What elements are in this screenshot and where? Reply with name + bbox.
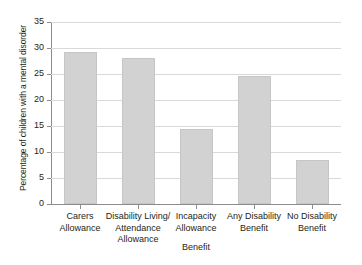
y-tick-label-15: 15 (22, 121, 44, 130)
bar (64, 52, 97, 204)
x-tick-mark-1 (138, 205, 139, 209)
bar (122, 58, 155, 204)
gridline-35 (51, 22, 341, 23)
bar-chart-figure: Percentage of children with a mental dis… (0, 0, 362, 265)
x-category-label-line: No Disability (277, 211, 347, 223)
y-tick-label-20: 20 (22, 95, 44, 104)
bar (296, 160, 329, 204)
y-tick-label-10: 10 (22, 147, 44, 156)
y-tick-label-35: 35 (22, 17, 44, 26)
plot-area (51, 22, 341, 204)
x-category-label-line: Benefit (277, 223, 347, 235)
x-tick-mark-0 (80, 205, 81, 209)
y-tick-label-0: 0 (22, 199, 44, 208)
x-axis-title: Benefit (51, 242, 341, 252)
bar (180, 129, 213, 204)
bar (238, 76, 271, 204)
x-tick-mark-3 (254, 205, 255, 209)
x-tick-mark-4 (312, 205, 313, 209)
y-tick-label-25: 25 (22, 69, 44, 78)
y-tick-label-5: 5 (22, 173, 44, 182)
x-tick-mark-2 (196, 205, 197, 209)
gridline-30 (51, 48, 341, 49)
x-category-label: No DisabilityBenefit (277, 211, 347, 234)
y-tick-label-30: 30 (22, 43, 44, 52)
